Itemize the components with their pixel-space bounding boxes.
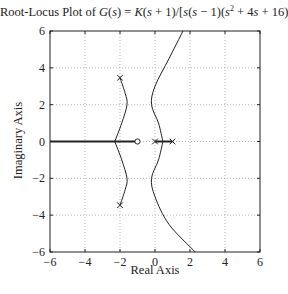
branch-breakaway-upper [151, 31, 183, 142]
y-tick-label: 4 [39, 61, 45, 75]
x-tick-label: −6 [44, 255, 57, 269]
y-tick-label: −6 [32, 245, 45, 259]
x-tick-label: −4 [79, 255, 92, 269]
zero-marker-icon [135, 139, 140, 144]
pole-marker-icon [117, 202, 123, 208]
y-axis-label: Imaginary Axis [11, 91, 26, 191]
branch-breakaway-lower [151, 142, 195, 253]
branch-complex-lower [115, 142, 127, 206]
x-tick-label: 6 [257, 255, 263, 269]
x-axis-ticks: −6−4−20246 [44, 31, 263, 269]
y-tick-label: −4 [32, 208, 45, 222]
y-tick-label: 2 [39, 98, 45, 112]
root-locus-plot: −6−4−20246 6420−2−4−6 [0, 0, 288, 294]
branch-complex-upper [115, 78, 127, 142]
x-axis-label: Real Axis [105, 263, 205, 278]
y-tick-label: 0 [39, 135, 45, 149]
y-tick-label: 6 [39, 24, 45, 38]
y-tick-label: −2 [32, 171, 45, 185]
x-tick-label: 4 [222, 255, 228, 269]
